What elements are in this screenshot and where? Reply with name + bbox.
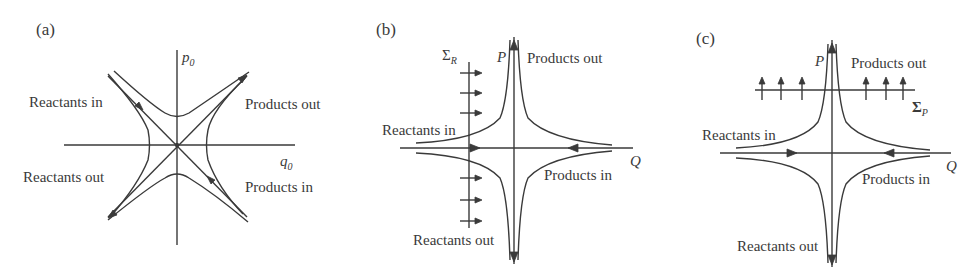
panel-b-arrow-products-out-icon <box>510 40 518 50</box>
panel-a-reactants-in-label: Reactants in <box>29 95 103 110</box>
panel-b-products-in-label: Products in <box>544 168 612 183</box>
figure: (a) p0 q0 Reactants in Products out Reac… <box>0 0 976 273</box>
panel-b-sigma-r-label: ΣR <box>442 48 457 66</box>
panel-a-saddle-point <box>175 143 179 147</box>
panel-c-letter: (c) <box>696 30 715 47</box>
panel-a-arrow-products-out-icon <box>238 75 247 83</box>
panel-a-letter: (a) <box>36 21 55 38</box>
panel-a-reactants-out-label: Reactants out <box>23 170 104 185</box>
panel-c-products-in-label: Products in <box>862 172 930 187</box>
panel-a-q0-label: q0 <box>280 154 293 172</box>
panel-c-q-label: Q <box>946 159 957 174</box>
panel-b-products-out-label: Products out <box>527 51 602 66</box>
panel-c-arrow-reactants-out-icon <box>828 255 836 265</box>
panel-a-diagram <box>64 50 295 245</box>
panel-c-reactants-in-label: Reactants in <box>702 128 776 143</box>
panel-b-reactants-out-label: Reactants out <box>413 233 494 248</box>
panel-b-arrow-reactants-out-icon <box>510 252 518 262</box>
panel-b-p-label: P <box>497 50 506 65</box>
panel-b-q-label: Q <box>630 154 641 169</box>
panel-a-products-in-label: Products in <box>245 180 313 195</box>
panel-b-reactants-in-label: Reactants in <box>382 123 456 138</box>
panel-c-products-out-label: Products out <box>851 56 926 71</box>
panel-a-trajectory-bottom <box>108 174 248 222</box>
panel-a-products-out-label: Products out <box>245 97 320 112</box>
panel-c-arrow-reactants-in-icon <box>787 149 797 157</box>
panel-c-sigma-p-label: ΣP <box>912 100 928 118</box>
panel-c-diagram <box>720 40 951 267</box>
panel-b-letter: (b) <box>376 21 396 38</box>
panel-c-reactants-out-label: Reactants out <box>737 239 818 254</box>
panel-b-diagram <box>400 37 633 264</box>
panel-c-arrow-products-in-icon <box>884 149 894 157</box>
panel-b-arrow-reactants-in-icon <box>470 144 480 152</box>
panel-c-arrow-products-out-icon <box>828 43 836 53</box>
panel-a-p0-label: p0 <box>182 50 195 68</box>
panel-b-arrow-products-in-icon <box>568 144 578 152</box>
panel-c-p-label: P <box>815 54 824 69</box>
